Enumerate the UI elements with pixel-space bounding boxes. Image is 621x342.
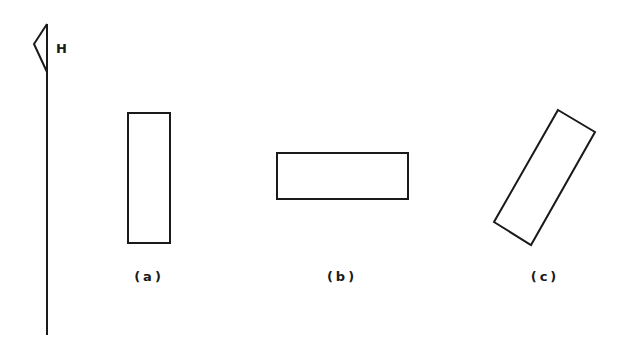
diagram-canvas: H (a) (b) (c) <box>0 0 621 342</box>
shape-a: (a) <box>128 113 170 284</box>
rectangle-horizontal <box>277 153 408 199</box>
reference-axis: H <box>34 24 67 335</box>
label-c: (c) <box>531 269 560 284</box>
reference-label-h: H <box>56 41 67 56</box>
rectangle-vertical <box>128 113 170 243</box>
label-a: (a) <box>134 269 164 284</box>
label-b: (b) <box>327 269 357 284</box>
rectangle-tilted <box>494 110 595 245</box>
shape-b: (b) <box>277 153 408 284</box>
flag-marker-icon <box>34 24 47 72</box>
shape-c: (c) <box>494 110 595 284</box>
